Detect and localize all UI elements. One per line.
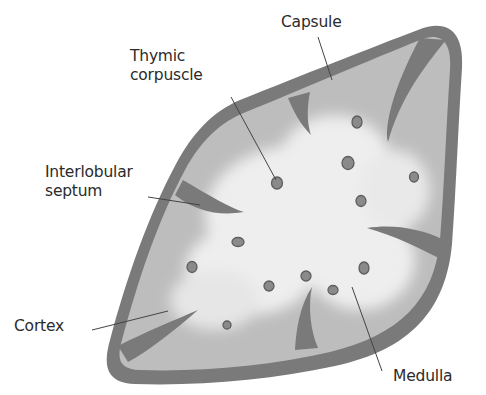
thymus-diagram: Capsule Thymic corpuscle Interlobular se… [0, 0, 486, 395]
label-interlobular-septum-line2: septum [45, 182, 102, 200]
label-interlobular-septum-line1: Interlobular [45, 163, 133, 181]
label-medulla: Medulla [393, 367, 452, 385]
label-cortex: Cortex [14, 317, 64, 335]
label-thymic-corpuscle-line1: Thymic [130, 47, 185, 65]
label-capsule: Capsule [281, 13, 342, 31]
label-thymic-corpuscle-line2: corpuscle [130, 66, 203, 84]
